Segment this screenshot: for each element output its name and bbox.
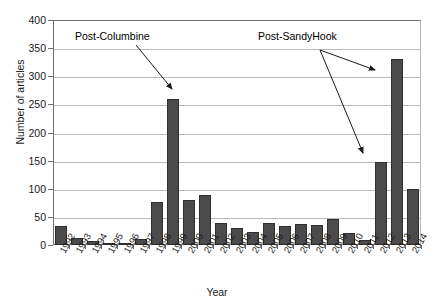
y-tick-label: 400 [0, 15, 46, 26]
bar-chart: 050100150200250300350400 Number of artic… [0, 0, 434, 304]
y-tick-mark [48, 245, 53, 246]
x-axis-title: Year [0, 286, 434, 298]
y-tick-label: 50 [0, 212, 46, 223]
bar [391, 59, 402, 245]
y-tick-label: 0 [0, 240, 46, 251]
bar [375, 162, 386, 245]
y-axis-title: Number of articles [14, 32, 26, 172]
annotation-label: Post-Columbine [75, 31, 150, 42]
y-tick-label: 100 [0, 184, 46, 195]
annotation-label: Post-SandyHook [258, 31, 337, 42]
bars-layer [53, 20, 421, 245]
bar [167, 99, 178, 245]
